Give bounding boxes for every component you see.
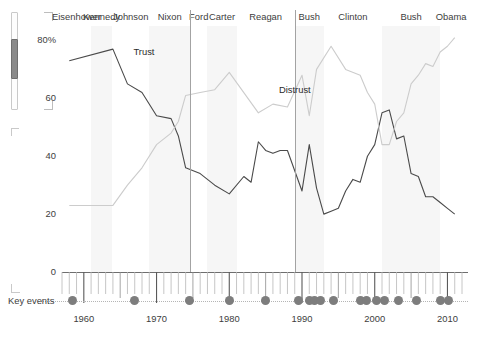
y-tick-label: 60	[26, 93, 56, 103]
key-event-dot[interactable]	[394, 296, 403, 305]
president-label: Nixon	[158, 10, 182, 24]
vertical-scrollbar-thumb[interactable]	[11, 39, 18, 79]
key-events-guideline	[38, 301, 468, 302]
key-event-dot[interactable]	[225, 296, 234, 305]
series-lines	[62, 26, 462, 272]
key-event-dot[interactable]	[362, 296, 371, 305]
key-event-dot[interactable]	[436, 296, 445, 305]
bracket-bottom-left	[11, 284, 20, 293]
president-divider	[190, 10, 191, 272]
x-tick-label: 1960	[73, 313, 94, 324]
x-tick-label: 1980	[219, 313, 240, 324]
president-label: Obama	[436, 10, 467, 24]
secondary-bracket-mark	[11, 128, 19, 136]
key-event-dot[interactable]	[329, 296, 338, 305]
president-label: Bush	[299, 10, 320, 24]
y-tick-label: 20	[26, 209, 56, 219]
president-divider	[295, 10, 296, 272]
key-event-dot[interactable]	[294, 296, 303, 305]
key-events-label: Key events	[8, 295, 54, 306]
president-label: Reagan	[249, 10, 282, 24]
president-label: Bush	[400, 10, 421, 24]
y-tick-label: 40	[26, 151, 56, 161]
key-event-dot[interactable]	[185, 296, 194, 305]
x-tick-label: 1990	[292, 313, 313, 324]
president-label: Ford	[189, 10, 208, 24]
series-annotation-trust: Trust	[133, 46, 154, 57]
president-label: Carter	[209, 10, 235, 24]
series-annotation-distrust: Distrust	[279, 84, 311, 95]
president-term-header: EisenhowerKennedyJohnsonNixonFordCarterR…	[0, 10, 478, 26]
x-tick-label: 1970	[146, 313, 167, 324]
president-label: Johnson	[113, 10, 148, 24]
y-tick-label: 80%	[26, 35, 56, 45]
x-tick-label: 2010	[437, 313, 458, 324]
chart-screenshot: EisenhowerKennedyJohnsonNixonFordCarterR…	[0, 0, 478, 343]
series-line-trust	[69, 49, 454, 214]
president-label: Clinton	[338, 10, 367, 24]
y-tick-label: 0	[26, 267, 56, 277]
key-event-dot[interactable]	[380, 296, 389, 305]
plot-area	[62, 26, 462, 272]
series-line-distrust	[69, 38, 454, 206]
x-tick-label: 2000	[364, 313, 385, 324]
